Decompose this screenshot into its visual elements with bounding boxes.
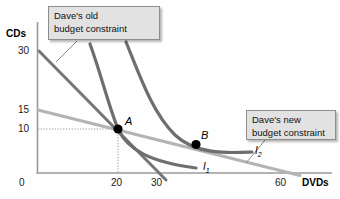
new-callout-line1: Dave's new <box>252 114 330 127</box>
old-callout-leader-line <box>56 41 77 62</box>
y-tick-10: 10 <box>18 123 29 134</box>
old-callout-line2: budget constraint <box>54 23 154 36</box>
new-callout-line2: budget constraint <box>252 127 330 140</box>
data-point-a[interactable] <box>113 124 122 133</box>
curve-label-i2: I2 <box>255 145 262 158</box>
curve-label-i2-sub: 2 <box>258 151 262 158</box>
curve-label-i1-sub: 1 <box>206 167 210 174</box>
point-b-label: B <box>201 129 208 141</box>
curve-label-i1: I1 <box>203 161 210 174</box>
x-tick-30: 30 <box>151 177 162 188</box>
new-budget-callout[interactable]: Dave's new budget constraint <box>246 110 336 140</box>
y-axis-title: CDs <box>6 28 26 39</box>
data-point-b[interactable] <box>191 140 200 149</box>
indifference-curve-i1 <box>90 44 196 168</box>
y-tick-30: 30 <box>18 45 29 56</box>
old-callout-line1: Dave's old <box>54 10 154 23</box>
x-tick-20: 20 <box>111 177 122 188</box>
x-axis-title: DVDs <box>302 177 329 188</box>
point-a-label: A <box>125 115 132 127</box>
y-tick-15: 15 <box>18 104 29 115</box>
origin-label: 0 <box>19 177 25 188</box>
old-budget-callout[interactable]: Dave's old budget constraint <box>48 6 160 40</box>
chart-figure: CDs DVDs 30 15 10 0 20 30 60 A B I1 I2 D… <box>0 0 340 199</box>
x-tick-60: 60 <box>275 177 286 188</box>
